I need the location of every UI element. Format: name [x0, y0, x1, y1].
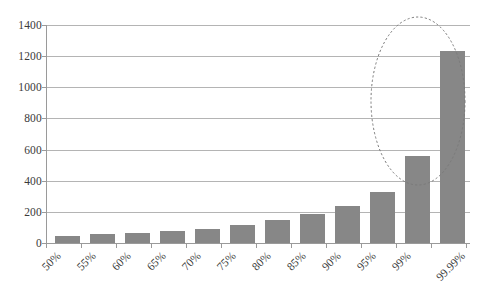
y-tick-label: 400: [2, 176, 42, 188]
x-tick-mark: [81, 244, 82, 248]
y-tick-label: 0: [2, 238, 42, 250]
bar-85pct: [300, 214, 325, 243]
y-tick-label: 1200: [2, 51, 42, 63]
bar-80pct: [265, 220, 290, 243]
x-tick-mark: [221, 244, 222, 248]
bar-55pct: [90, 234, 115, 243]
x-tick-mark: [466, 244, 467, 248]
bar-95pct: [370, 192, 395, 243]
y-tick-label: 1400: [2, 20, 42, 32]
x-tick-mark: [326, 244, 327, 248]
bar-65pct: [160, 231, 185, 244]
x-tick-label-95pct: 95%: [355, 250, 378, 273]
x-tick-mark: [186, 244, 187, 248]
x-tick-mark: [256, 244, 257, 248]
x-tick-label-55pct: 55%: [75, 250, 98, 273]
bar-chart: 1400 1200 1000 800 600 400 200 0: [0, 0, 481, 298]
x-tick-label-50pct: 50%: [40, 250, 63, 273]
x-tick-mark: [46, 244, 47, 248]
x-tick-label-85pct: 85%: [285, 250, 308, 273]
x-tick-label-90pct: 90%: [320, 250, 343, 273]
bar-75pct: [230, 225, 255, 243]
y-axis-labels: 1400 1200 1000 800 600 400 200 0: [0, 25, 42, 243]
y-tick-label: 800: [2, 113, 42, 125]
x-tick-mark: [431, 244, 432, 248]
x-tick-label-99-99pct: 99.99%: [434, 250, 467, 283]
x-tick-label-75pct: 75%: [215, 250, 238, 273]
x-tick-mark: [361, 244, 362, 248]
x-tick-label-70pct: 70%: [180, 250, 203, 273]
bar-99-99pct: [440, 51, 465, 243]
x-tick-label-99pct: 99%: [390, 250, 413, 273]
x-tick-label-65pct: 65%: [145, 250, 168, 273]
y-tick-label: 1000: [2, 82, 42, 94]
x-axis-labels: 50% 55% 60% 65% 70% 75% 80% 85% 90% 95% …: [46, 250, 470, 298]
bar-99pct: [405, 156, 430, 243]
x-tick-mark: [396, 244, 397, 248]
bar-50pct: [55, 236, 80, 243]
x-tick-label-60pct: 60%: [110, 250, 133, 273]
x-tick-mark: [291, 244, 292, 248]
bar-60pct: [125, 233, 150, 243]
gridline-0-baseline: [46, 243, 470, 244]
x-tick-label-80pct: 80%: [250, 250, 273, 273]
x-tick-mark: [116, 244, 117, 248]
x-tick-mark: [151, 244, 152, 248]
bar-90pct: [335, 206, 360, 243]
y-tick-label: 600: [2, 145, 42, 157]
bar-70pct: [195, 229, 220, 243]
bars-group: [46, 25, 470, 243]
y-tick-label: 200: [2, 207, 42, 219]
